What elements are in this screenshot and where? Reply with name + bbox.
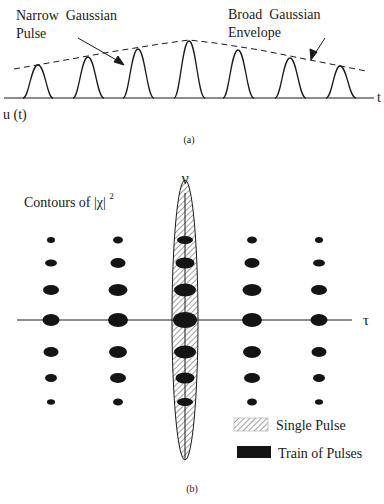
panel-a-caption: (a) xyxy=(183,134,194,146)
legend-item-single-pulse: Single Pulse xyxy=(234,418,346,433)
pulse-7 xyxy=(326,66,356,98)
narrow-pulse-label-line2: Pulse xyxy=(16,26,46,41)
contours-title: Contours of |χ| 2 xyxy=(24,191,114,210)
narrow-gaussian-pulses xyxy=(23,41,356,98)
legend-label-train-of-pulses: Train of Pulses xyxy=(278,446,362,461)
delay-axis-label: τ xyxy=(363,312,369,328)
signal-label: u (t) xyxy=(3,107,27,123)
pulse-1 xyxy=(23,65,53,98)
broad-envelope-label-line1: Broad Gaussian xyxy=(228,7,321,22)
contours-title-text: Contours of |χ| xyxy=(24,195,106,210)
broad-envelope-label-line2: Envelope xyxy=(228,25,281,40)
legend: Single Pulse Train of Pulses xyxy=(234,418,362,461)
pulse-6 xyxy=(275,58,306,98)
panel-a: t Narrow Gaussian Pulse Broad Gaussian E… xyxy=(3,7,381,146)
panel-b: Contours of |χ| 2 ν τ xyxy=(17,170,369,495)
solid-swatch xyxy=(237,446,271,458)
legend-item-train-of-pulses: Train of Pulses xyxy=(237,446,362,461)
pulse-5 xyxy=(223,50,254,98)
doppler-axis-label: ν xyxy=(181,170,188,187)
ambiguity-diagram: t Narrow Gaussian Pulse Broad Gaussian E… xyxy=(0,0,384,504)
pulse-4 xyxy=(174,41,205,98)
narrow-pulse-label-line1: Narrow Gaussian xyxy=(16,8,117,23)
panel-b-caption: (b) xyxy=(186,483,198,495)
time-axis-label: t xyxy=(377,90,381,105)
train-of-pulses-contours xyxy=(43,236,328,406)
contours-title-exponent: 2 xyxy=(109,191,114,201)
pulse-2 xyxy=(73,57,104,98)
pulse-3 xyxy=(123,49,154,98)
envelope-arrow xyxy=(310,38,325,60)
hatched-swatch xyxy=(234,418,268,431)
legend-label-single-pulse: Single Pulse xyxy=(276,418,346,433)
